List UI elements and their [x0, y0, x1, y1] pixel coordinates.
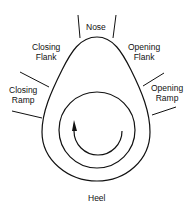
nose-divider-right: [113, 15, 116, 38]
label-opening-ramp-line1: Opening: [151, 83, 183, 93]
label-opening-ramp: Opening Ramp: [151, 83, 183, 103]
arrowhead-icon: [72, 120, 77, 131]
label-opening-flank-line2: Flank: [128, 52, 160, 62]
label-closing-flank-line2: Flank: [32, 52, 60, 62]
label-closing-flank: Closing Flank: [32, 42, 60, 62]
label-closing-flank-line1: Closing: [32, 42, 60, 52]
label-heel: Heel: [88, 193, 105, 203]
label-nose: Nose: [86, 22, 106, 32]
label-closing-ramp: Closing Ramp: [9, 85, 37, 105]
label-closing-ramp-line2: Ramp: [9, 95, 37, 105]
rotation-arrow-arc: [74, 131, 122, 155]
nose-divider-left: [78, 15, 80, 38]
label-opening-ramp-line2: Ramp: [151, 93, 183, 103]
opening-base-divider: [152, 107, 176, 115]
label-opening-flank: Opening Flank: [128, 42, 160, 62]
label-closing-ramp-line1: Closing: [9, 85, 37, 95]
label-opening-flank-line1: Opening: [128, 42, 160, 52]
base-circle: [59, 92, 135, 168]
closing-base-divider: [12, 111, 42, 118]
